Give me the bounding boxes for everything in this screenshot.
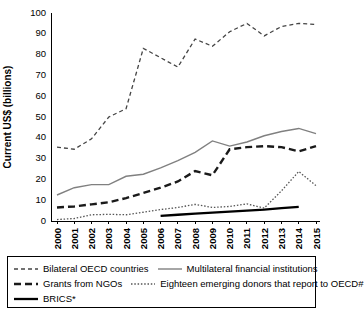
- y-tick-label: 20: [35, 173, 46, 184]
- dashed-line-swatch: [14, 264, 38, 274]
- x-tick-label: 2001: [69, 227, 80, 249]
- axes: [51, 13, 320, 221]
- x-tick-label: 2003: [103, 228, 114, 249]
- x-tick-label: 2005: [138, 227, 149, 249]
- y-tick-label: 100: [30, 7, 46, 18]
- legend-item[interactable]: Bilateral OECD countries: [14, 263, 149, 274]
- x-axis-ticks: 2000200120022003200420052006200720082009…: [52, 221, 322, 249]
- x-tick-label: 2004: [121, 227, 132, 249]
- x-tick-label: 2014: [293, 227, 304, 249]
- x-tick-label: 2009: [207, 228, 218, 249]
- chart-area: Current US$ (billions) 01020304050607080…: [0, 0, 325, 250]
- x-tick-label: 2002: [86, 228, 97, 249]
- long-dash-line-swatch: [14, 279, 38, 289]
- series-line: [57, 146, 316, 207]
- series-line: [57, 128, 316, 195]
- legend-item[interactable]: Multilateral financial institutions: [158, 263, 318, 274]
- x-tick-label: 2008: [190, 228, 201, 249]
- legend-row: Bilateral OECD countriesMultilateral fin…: [14, 261, 309, 276]
- series-line: [57, 23, 316, 149]
- legend-item-label: Multilateral financial institutions: [187, 263, 318, 274]
- y-axis-title-text: Current US$ (billions): [2, 66, 13, 169]
- y-tick-label: 50: [35, 111, 46, 122]
- legend-row: Grants from NGOsEighteen emerging donors…: [14, 276, 309, 291]
- x-tick-label: 2000: [52, 228, 63, 249]
- solid-gray-line-swatch: [158, 264, 182, 274]
- legend-item[interactable]: BRICS*: [14, 293, 76, 304]
- y-tick-label: 80: [35, 48, 46, 59]
- legend-item-label: BRICS*: [43, 293, 76, 304]
- y-tick-label: 90: [35, 27, 46, 38]
- y-tick-label: 30: [35, 152, 46, 163]
- dotted-line-swatch: [131, 279, 155, 289]
- series-line: [161, 207, 299, 216]
- line-chart: Current US$ (billions) 01020304050607080…: [0, 0, 325, 250]
- legend-item-label: Eighteen emerging donors that report to …: [160, 278, 363, 289]
- x-tick-label: 2012: [259, 228, 270, 249]
- y-axis-ticks: 0102030405060708090100: [30, 7, 46, 226]
- legend-item-label: Grants from NGOs: [43, 278, 122, 289]
- x-tick-label: 2006: [155, 228, 166, 249]
- legend-item[interactable]: Eighteen emerging donors that report to …: [131, 278, 363, 289]
- legend: Bilateral OECD countriesMultilateral fin…: [7, 256, 316, 308]
- y-tick-label: 10: [35, 194, 46, 205]
- x-tick-label: 2011: [241, 227, 252, 248]
- y-tick-label: 70: [35, 69, 46, 80]
- legend-item[interactable]: Grants from NGOs: [14, 278, 122, 289]
- x-tick-label: 2015: [311, 227, 322, 249]
- y-tick-label: 60: [35, 90, 46, 101]
- series-line: [57, 172, 316, 220]
- legend-row: BRICS*: [14, 291, 309, 306]
- y-axis-title: Current US$ (billions): [2, 66, 13, 169]
- x-tick-label: 2007: [172, 228, 183, 249]
- solid-black-line-swatch: [14, 294, 38, 304]
- y-tick-label: 0: [41, 215, 46, 226]
- series-lines: [57, 23, 316, 219]
- y-tick-label: 40: [35, 131, 46, 142]
- x-tick-label: 2010: [224, 228, 235, 249]
- x-tick-label: 2013: [276, 228, 287, 249]
- legend-item-label: Bilateral OECD countries: [43, 263, 149, 274]
